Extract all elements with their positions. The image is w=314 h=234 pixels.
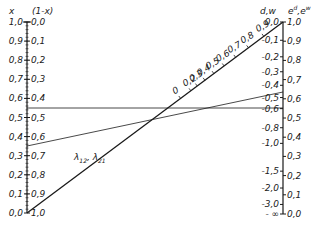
left-tick-x: 0,8 — [9, 55, 24, 65]
left-tick-x: 0,4 — [9, 132, 24, 142]
right-tick-dw: -0,4 — [261, 80, 279, 90]
left-tick-x: 0,3 — [9, 151, 24, 161]
right-tick-exp: 0,3 — [287, 151, 302, 161]
diagonal-tick-label: 0 — [171, 84, 181, 96]
right-tick-exp: 0,5 — [287, 113, 302, 123]
left-tick-one-minus-x: 0,3 — [31, 74, 46, 84]
right-tick-dw: -2,0 — [261, 183, 279, 193]
axis-header-x: x — [8, 6, 15, 16]
left-tick-x: 0,7 — [9, 74, 24, 84]
lambda-label: λ12, λ21 — [73, 152, 106, 164]
right-tick-exp: 0,0 — [287, 209, 302, 219]
left-tick-one-minus-x: 0,0 — [31, 17, 46, 27]
right-tick-exp: 1,0 — [287, 17, 302, 27]
axis-header-dw: d,w — [260, 6, 277, 16]
left-tick-one-minus-x: 0,4 — [31, 93, 46, 103]
left-tick-x: 0,1 — [9, 189, 23, 199]
left-tick-one-minus-x: 0,1 — [31, 36, 45, 46]
axis-header-one-minus-x: (1-x) — [32, 6, 53, 16]
left-axis: x (1-x) 1,00,00,90,10,80,20,70,30,60,40,… — [8, 6, 53, 218]
right-tick-exp: 0,6 — [287, 94, 302, 104]
left-tick-x: 0,5 — [9, 113, 24, 123]
right-tick-exp: 0,9 — [287, 36, 302, 46]
right-tick-exp: 0,4 — [287, 132, 302, 142]
right-tick-dw: -0,2 — [261, 52, 279, 62]
right-tick-dw: -0,5 — [261, 93, 279, 103]
axis-header-exp: ed,ew — [288, 4, 311, 16]
right-tick-dw: -0,6 — [261, 104, 279, 114]
right-tick-dw: -0,3 — [261, 67, 279, 77]
left-tick-x: 0,2 — [9, 170, 24, 180]
left-tick-one-minus-x: 0,6 — [31, 132, 46, 142]
left-tick-one-minus-x: 0,8 — [31, 170, 46, 180]
right-tick-exp: 0,1 — [287, 190, 301, 200]
isopleth-lines — [27, 92, 283, 146]
left-tick-one-minus-x: 0,7 — [31, 151, 46, 161]
right-tick-exp: 0,7 — [287, 75, 302, 85]
right-tick-dw: -0,8 — [261, 123, 279, 133]
right-tick-exp: 0,2 — [287, 171, 302, 181]
left-tick-one-minus-x: 0,9 — [31, 189, 46, 199]
left-tick-x: 0,6 — [9, 93, 24, 103]
right-tick-dw: -1,5 — [261, 166, 279, 176]
left-tick-x: 0,9 — [9, 36, 24, 46]
left-tick-one-minus-x: 0,5 — [31, 113, 46, 123]
lambda-scale: 00,20,30,40,50,60,70,80,9 λ12, λ21 — [27, 18, 283, 213]
right-tick-dw: -1,0 — [261, 138, 279, 148]
diagonal-tick-label: 0,8 — [238, 30, 256, 46]
left-tick-x: 0,0 — [9, 208, 24, 218]
right-axis: d,w ed,ew 0,0-0,1-0,2-0,3-0,4-0,5-0,6-0,… — [260, 4, 311, 219]
right-tick-dw: -3,0 — [261, 199, 279, 209]
right-tick-dw: - ∞ — [265, 209, 279, 219]
right-tick-exp: 0,8 — [287, 55, 302, 65]
left-tick-one-minus-x: 0,2 — [31, 55, 46, 65]
left-tick-x: 1,0 — [9, 17, 24, 27]
left-tick-one-minus-x: 1,0 — [31, 208, 46, 218]
nomogram: x (1-x) 1,00,00,90,10,80,20,70,30,60,40,… — [0, 0, 314, 234]
